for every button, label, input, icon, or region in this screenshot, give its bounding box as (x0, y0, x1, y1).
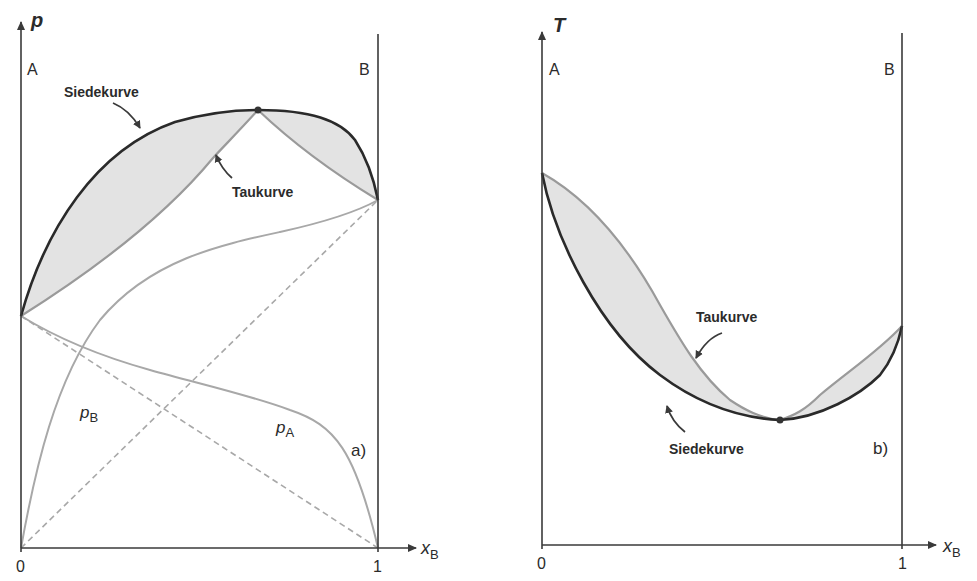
taukurve-pointer-arrow-a (216, 155, 232, 178)
siedekurve-pointer-arrow-a (113, 103, 140, 128)
x-axis-label-a: xB (420, 538, 439, 562)
y-axis-label-T: T (553, 14, 567, 36)
siedekurve-label-a: Siedekurve (64, 84, 139, 100)
x-tick-0-a: 0 (16, 558, 25, 575)
component-b-label: B (359, 61, 370, 78)
y-axis-label-p: p (30, 9, 43, 31)
siedekurve-label-b: Siedekurve (669, 441, 744, 457)
x-tick-1-b: 1 (898, 555, 907, 572)
azeotrope-point-a (255, 107, 262, 114)
x-tick-1-a: 1 (373, 558, 382, 575)
raoult-pA-dashed (21, 316, 378, 548)
taukurve-pointer-arrow-b (696, 333, 722, 358)
x-axis-label-b: xB (942, 536, 961, 560)
taukurve-label-b: Taukurve (696, 309, 757, 325)
component-b-label-b: B (884, 61, 895, 78)
panel-b-T-x-diagram: T A B Taukurve Siedekurve b) 0 1 xB (537, 14, 961, 572)
panel-tag-a: a) (351, 441, 366, 460)
taukurve-label-a: Taukurve (232, 184, 293, 200)
azeotrope-point-b (777, 417, 784, 424)
panel-tag-b: b) (873, 439, 888, 458)
component-a-label-b: A (549, 61, 560, 78)
siedekurve-pointer-arrow-b (667, 406, 685, 432)
x-tick-0-b: 0 (537, 555, 546, 572)
pB-label: pB (79, 403, 98, 425)
two-phase-region-right-b (780, 326, 902, 420)
two-phase-region-left (21, 110, 258, 316)
pA-label: pA (275, 418, 294, 440)
two-phase-region-left-b (542, 173, 780, 420)
component-a-label: A (27, 61, 38, 78)
diagram-canvas: p A B Siedekurve Taukurve pB pA a) 0 1 x… (0, 0, 977, 581)
panel-a-p-x-diagram: p A B Siedekurve Taukurve pB pA a) 0 1 x… (16, 9, 439, 575)
